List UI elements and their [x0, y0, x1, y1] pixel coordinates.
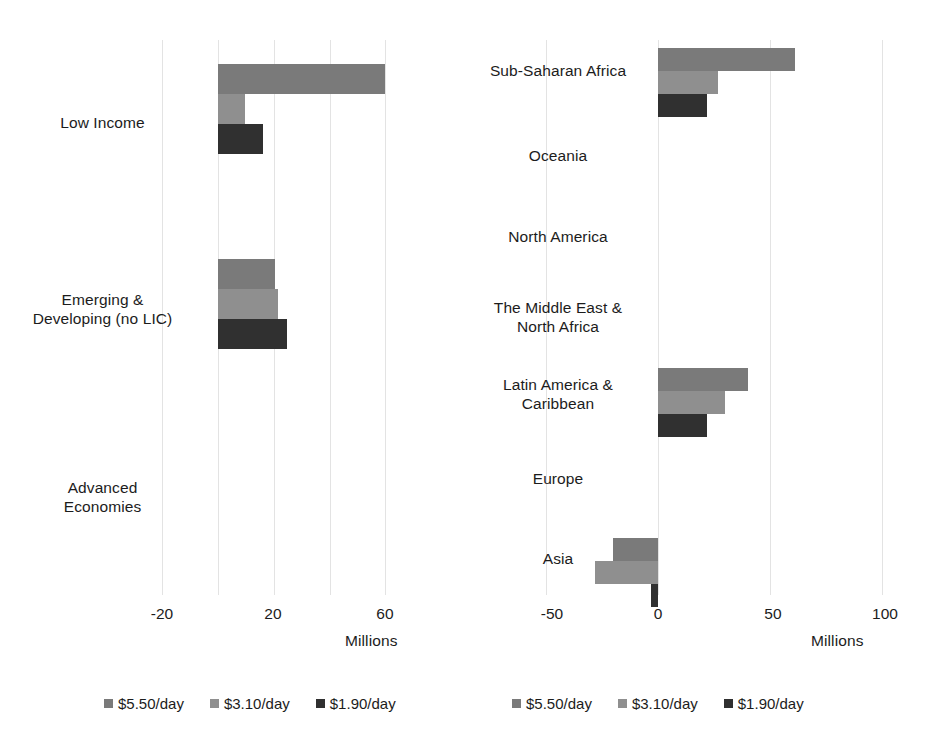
gridline	[385, 40, 386, 595]
bar	[658, 391, 725, 414]
left-category-label-emerging-developing: Emerging & Developing (no LIC)	[10, 290, 195, 328]
legend-swatch-190-icon	[316, 699, 325, 708]
legend-swatch-310-icon	[210, 699, 219, 708]
legend-item-550: $5.50/day	[512, 695, 592, 712]
right-axis-title: Millions	[811, 632, 863, 650]
legend-label-310: $3.10/day	[632, 695, 698, 712]
bar	[658, 368, 748, 391]
left-chart-panel: Low Income Emerging & Developing (no LIC…	[0, 0, 462, 742]
right-category-label-north-america: North America	[467, 227, 649, 246]
right-category-label-middle-east-north-africa: The Middle East & North Africa	[467, 298, 649, 336]
bar	[651, 584, 658, 607]
legend-label-190: $1.90/day	[330, 695, 396, 712]
bar	[658, 71, 718, 94]
bar	[218, 319, 287, 349]
right-xtick--50: -50	[522, 605, 582, 623]
bar	[658, 94, 707, 117]
legend-swatch-550-icon	[104, 699, 113, 708]
legend-label-190: $1.90/day	[738, 695, 804, 712]
bar	[658, 48, 795, 71]
legend-item-190: $1.90/day	[316, 695, 396, 712]
left-category-label-low-income: Low Income	[10, 113, 195, 132]
right-category-label-sub-saharan-africa: Sub-Saharan Africa	[467, 61, 649, 80]
legend-item-310: $3.10/day	[210, 695, 290, 712]
bar	[218, 259, 275, 289]
right-category-label-europe: Europe	[467, 469, 649, 488]
legend-swatch-550-icon	[512, 699, 521, 708]
right-chart-panel: Sub-Saharan Africa Oceania North America…	[462, 0, 925, 742]
gridline	[882, 40, 883, 595]
legend-swatch-190-icon	[724, 699, 733, 708]
bar	[218, 124, 263, 154]
gridline	[330, 40, 331, 595]
legend-swatch-310-icon	[618, 699, 627, 708]
gridline	[658, 40, 659, 595]
left-axis-title: Millions	[345, 632, 397, 650]
right-xtick-100: 100	[855, 605, 915, 623]
right-category-label-latin-america-caribbean: Latin America & Caribbean	[467, 375, 649, 413]
two-panel-bar-chart-figure: Low Income Emerging & Developing (no LIC…	[0, 0, 925, 742]
legend-item-310: $3.10/day	[618, 695, 698, 712]
left-chart-legend: $5.50/day $3.10/day $1.90/day	[104, 695, 396, 712]
legend-label-310: $3.10/day	[224, 695, 290, 712]
bar	[218, 94, 245, 124]
right-category-label-asia: Asia	[467, 549, 649, 568]
left-xtick-20: 20	[243, 605, 303, 623]
left-xtick-60: 60	[355, 605, 415, 623]
legend-item-190: $1.90/day	[724, 695, 804, 712]
left-category-label-advanced-economies: Advanced Economies	[10, 478, 195, 516]
bar	[218, 64, 385, 94]
gridline	[770, 40, 771, 595]
right-xtick-50: 50	[743, 605, 803, 623]
bar	[658, 414, 707, 437]
left-xtick--20: -20	[132, 605, 192, 623]
bar	[218, 289, 278, 319]
right-chart-legend: $5.50/day $3.10/day $1.90/day	[512, 695, 804, 712]
legend-label-550: $5.50/day	[118, 695, 184, 712]
legend-label-550: $5.50/day	[526, 695, 592, 712]
right-xtick-0: 0	[628, 605, 688, 623]
legend-item-550: $5.50/day	[104, 695, 184, 712]
right-category-label-oceania: Oceania	[467, 146, 649, 165]
